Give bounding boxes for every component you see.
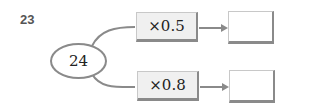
result-box-bottom[interactable]: [229, 70, 275, 103]
result-box-top[interactable]: [228, 11, 274, 44]
start-value-node: 24: [50, 43, 107, 79]
operation-box-top: ×0.5: [136, 12, 198, 42]
operation-box-bottom: ×0.8: [137, 71, 199, 101]
